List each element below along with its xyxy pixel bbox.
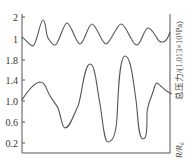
tick-label: 1.8 xyxy=(6,55,19,66)
chart: 2 1 1.8 1.4 1.0 0.6 0.2 总压力/(1.013×10⁵Pa… xyxy=(0,0,191,164)
pressure-curve xyxy=(22,20,170,46)
radius-ratio-label: R/R₀ xyxy=(174,142,184,159)
tick-label: 1.0 xyxy=(6,96,19,107)
tick-label: 2 xyxy=(13,12,18,23)
radius-ratio-curve xyxy=(22,56,172,142)
tick-label: 0.6 xyxy=(6,117,19,128)
tick-label: 1.4 xyxy=(6,75,19,86)
tick-label: 0.2 xyxy=(6,138,19,149)
tick-label: 1 xyxy=(13,34,18,45)
right-axis-label: 总压力/(1.013×10⁵Pa) xyxy=(174,21,184,100)
